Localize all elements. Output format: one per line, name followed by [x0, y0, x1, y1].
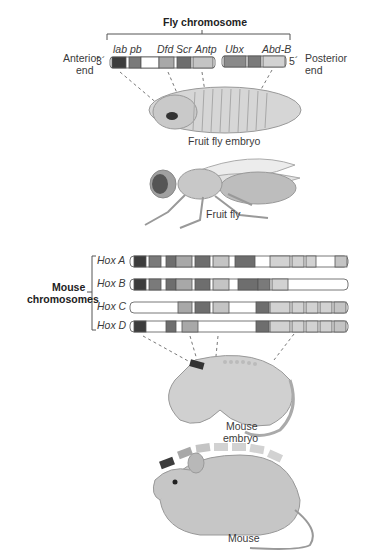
gene-ubx: Ubx — [225, 43, 244, 55]
mouse-embryo-label-2: embryo — [223, 432, 258, 444]
hox-d-label: Hox D — [97, 319, 126, 331]
gene-dfd: Dfd — [157, 43, 173, 55]
gene-antp: Antp — [195, 43, 217, 55]
posterior-end-label: end — [305, 64, 323, 76]
anterior-label: Anterior — [63, 52, 100, 64]
fly-chromosome-left — [110, 57, 215, 68]
posterior-label: Posterior — [305, 52, 347, 64]
fruit-fly-embryo — [149, 87, 301, 133]
fly-chromosome-right — [222, 56, 286, 67]
mouse-chromosomes-label-1: Mouse — [52, 281, 85, 293]
fruit-fly-embryo-label: Fruit fly embryo — [188, 135, 260, 147]
mouse-embryo-label-1: Mouse — [226, 420, 258, 432]
gene-abd-b: Abd-B — [262, 43, 291, 55]
three-prime-label: 3´ — [96, 55, 105, 67]
mouse-chromosomes-label-2: chromosomes — [27, 293, 99, 305]
gene-lab: lab — [113, 43, 127, 55]
hox-b-label: Hox B — [97, 277, 126, 289]
fruit-fly-label: Fruit fly — [206, 208, 240, 220]
gene-pb: pb — [130, 43, 142, 55]
hox-d-chromosome — [130, 321, 348, 332]
five-prime-label: 5´ — [289, 55, 298, 67]
hox-a-label: Hox A — [97, 254, 125, 266]
hox-a-chromosome — [130, 256, 348, 267]
mouse-label: Mouse — [228, 532, 260, 544]
diagram-graphics — [0, 0, 370, 551]
anterior-end-label: end — [76, 64, 94, 76]
hox-c-label: Hox C — [97, 300, 126, 312]
hox-c-chromosome — [130, 302, 348, 313]
gene-scr: Scr — [176, 43, 192, 55]
hox-b-chromosome — [130, 279, 348, 290]
